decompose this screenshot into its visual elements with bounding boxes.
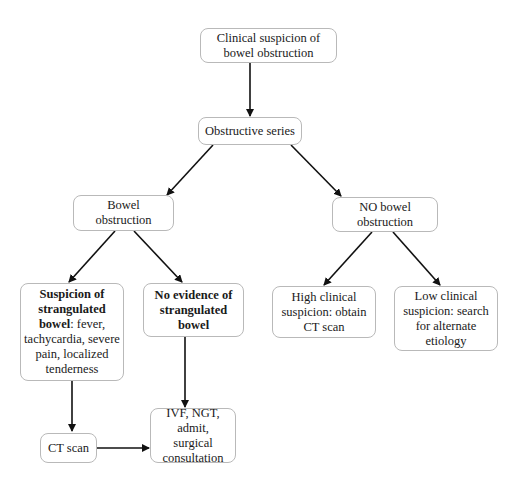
node-ivf-ngt-admit: IVF, NGT, admit, surgical consultation	[150, 408, 236, 463]
node-label: Clinical suspicion of bowel obstruction	[205, 31, 332, 61]
node-label: Obstructive series	[205, 124, 295, 139]
node-bowel-obstruction: Bowel obstruction	[73, 195, 174, 231]
node-ct-scan: CT scan	[40, 433, 97, 463]
node-label-bold: No evidence of strangulated bowel	[152, 288, 235, 333]
edge-no-bowel-low	[393, 232, 440, 285]
node-label: IVF, NGT, admit, surgical consultation	[156, 406, 230, 466]
node-no-bowel-obstruction: NO bowel obstruction	[332, 197, 438, 232]
node-obstructive-series: Obstructive series	[198, 117, 302, 145]
edge-bowel-strangulated	[69, 231, 115, 282]
node-low-clinical-suspicion: Low clinical suspicion: search for alter…	[394, 286, 498, 351]
node-label: Low clinical suspicion: search for alter…	[399, 289, 493, 349]
node-suspicion-strangulated: Suspicion of strangulated bowel: fever, …	[20, 283, 124, 381]
node-high-clinical-suspicion: High clinical suspicion: obtain CT scan	[272, 286, 376, 338]
node-label: High clinical suspicion: obtain CT scan	[277, 290, 371, 335]
node-label: NO bowel obstruction	[347, 200, 423, 230]
node-clinical-suspicion: Clinical suspicion of bowel obstruction	[200, 28, 337, 63]
edge-bowel-no-strangulated	[134, 231, 182, 282]
flowchart-edges	[0, 0, 519, 491]
edge-no-bowel-high	[324, 232, 372, 285]
node-label: CT scan	[48, 441, 89, 456]
node-label: Bowel obstruction	[78, 198, 169, 228]
edge-series-no-bowel	[291, 145, 341, 196]
edge-series-bowel	[167, 145, 213, 195]
node-no-evidence-strangulated: No evidence of strangulated bowel	[143, 283, 244, 337]
node-label: Suspicion of strangulated bowel: fever, …	[24, 287, 120, 377]
